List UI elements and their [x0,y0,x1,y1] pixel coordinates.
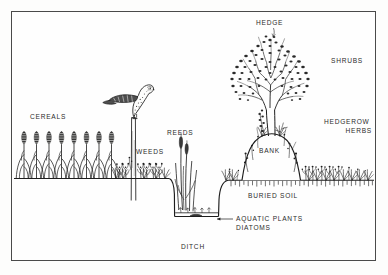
label-hedgerow: HEDGEROW [324,118,370,127]
hedge-tree [230,36,309,136]
ditch-reeds [175,133,197,211]
fence-post [131,118,136,201]
label-herbs: HERBS [324,127,372,136]
label-hedge: HEDGE [256,19,283,28]
cross-section-illustration [0,0,388,275]
perched-raptor-bird [103,85,155,119]
tree-trunk [266,110,275,136]
label-shrubs: SHRUBS [331,57,363,66]
label-weeds: WEEDS [136,148,164,157]
bulrush-head-1 [179,137,182,149]
field-edge-weeds [112,157,171,179]
post-woodgrain [132,131,134,176]
hedge-leader-line [272,28,275,37]
sediment-diatom-layer [190,214,202,216]
aquatic-plants-leader-arrowhead [217,218,220,221]
bulrush-head-2 [185,144,188,155]
label-cereals: CEREALS [30,113,66,122]
ditch-right-bank [219,180,229,216]
right-margin-herbs [302,166,374,181]
label-reeds: REEDS [167,129,193,138]
buried-soil-hatching [231,181,372,187]
figure-root: CEREALS WEEDS REEDS DITCH AQUATIC PLANTS… [0,0,388,275]
bank-outline [242,134,301,180]
label-ditch: DITCH [181,243,205,252]
ditch-left-bank [170,179,175,217]
raptor-eye [149,87,151,89]
submerged-plant-stems [179,208,211,213]
label-buried-soil: BURIED SOIL [248,192,298,201]
cereal-crop [16,132,119,179]
earth-bank-mound [242,134,301,180]
label-bank: BANK [259,147,280,156]
label-diatoms: DIATOMS [236,224,271,233]
ditch-lip-herbs [222,168,239,180]
label-aquatic-plants: AQUATIC PLANTS [236,215,303,224]
